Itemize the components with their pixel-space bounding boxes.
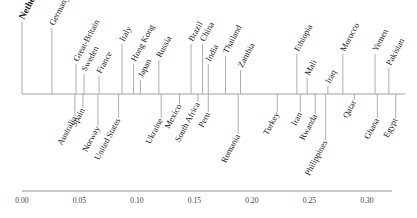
timeline-chart: NetherlandsGermanyGreat-BritainSwedenFra… xyxy=(0,0,417,218)
country-label: Mali xyxy=(302,57,319,77)
country-label: Ukraine xyxy=(143,116,165,145)
country-label: Morocco xyxy=(338,21,361,53)
country-label: Yemen xyxy=(370,26,390,52)
country-label: Germany xyxy=(47,0,71,27)
labels-layer: NetherlandsGermanyGreat-BritainSwedenFra… xyxy=(17,0,407,177)
country-label: Egypt xyxy=(381,116,400,139)
country-label: Netherlands xyxy=(17,0,49,21)
country-label: Thailand xyxy=(220,23,243,55)
country-label: Ethiopia xyxy=(292,22,315,53)
country-label: Iran xyxy=(289,110,305,128)
country-label: Iraq xyxy=(323,67,339,85)
country-label: Peru xyxy=(196,110,213,129)
x-tick-label: 0.15 xyxy=(188,196,201,205)
country-label: Russia xyxy=(154,34,174,59)
x-tick-label: 0.20 xyxy=(245,196,258,205)
x-tick-label: 0.25 xyxy=(303,196,316,205)
country-label: Ghana xyxy=(362,116,381,141)
country-label: Spain xyxy=(69,106,87,129)
country-label: Turkey xyxy=(261,110,282,137)
country-label: Qatar xyxy=(340,98,358,120)
x-axis-ticks: 0.000.050.100.150.200.250.30 xyxy=(15,196,373,205)
country-label: Philippines xyxy=(302,138,329,177)
x-tick-label: 0.05 xyxy=(73,196,86,205)
country-label: Pakistan xyxy=(384,36,407,67)
country-label: India xyxy=(203,42,220,62)
x-tick-label: 0.30 xyxy=(360,196,373,205)
x-tick-label: 0.00 xyxy=(15,196,28,205)
country-label: Zambia xyxy=(235,41,256,69)
x-tick-label: 0.10 xyxy=(130,196,143,205)
country-label: Italy xyxy=(117,24,134,43)
country-label: United States xyxy=(92,116,123,162)
country-label: Hong Kong xyxy=(128,22,156,63)
country-label: Romania xyxy=(219,132,242,164)
